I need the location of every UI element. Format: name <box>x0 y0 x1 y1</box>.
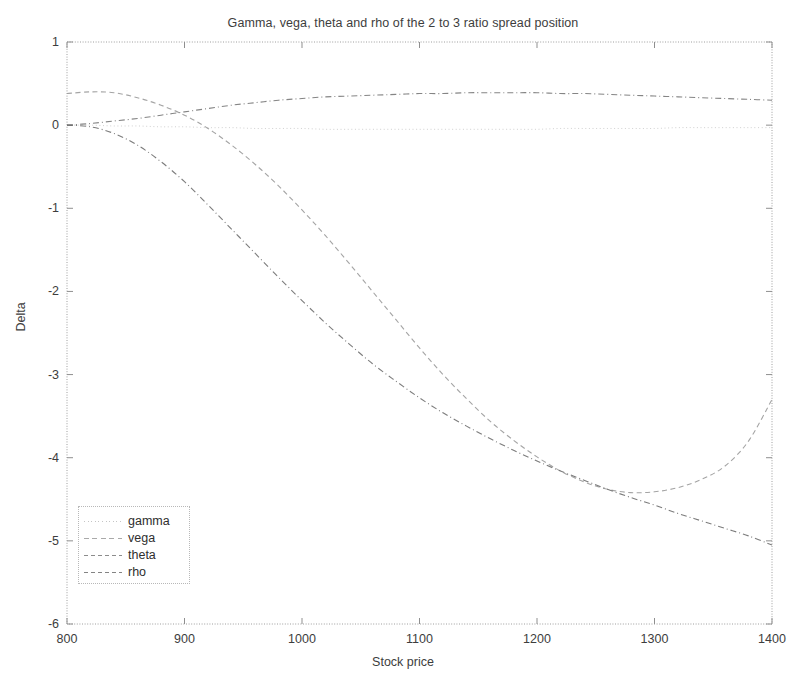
legend-line-sample-vega <box>84 538 122 539</box>
x-axis-label: Stock price <box>0 655 806 669</box>
y-tick-label: 0 <box>25 118 59 132</box>
x-tick-label: 1100 <box>406 632 433 646</box>
series-line-gamma <box>67 125 772 129</box>
series-line-vega <box>67 92 772 493</box>
figure-canvas: Gamma, vega, theta and rho of the 2 to 3… <box>0 0 806 687</box>
legend-line-sample-theta <box>84 555 122 556</box>
y-tick-label: -5 <box>25 534 59 548</box>
series-line-rho <box>67 125 772 545</box>
chart-legend: gammavegathetarho <box>78 506 190 584</box>
x-tick-label: 1000 <box>288 632 316 646</box>
legend-label: theta <box>128 549 156 562</box>
y-tick-label: -6 <box>25 617 59 631</box>
y-tick-label: -4 <box>25 451 59 465</box>
legend-line-sample-rho <box>84 572 122 573</box>
legend-label: rho <box>128 566 146 579</box>
series-line-theta <box>67 93 772 125</box>
data-series-layer <box>67 92 772 545</box>
legend-label: gamma <box>128 515 170 528</box>
legend-line-sample-gamma <box>84 521 122 522</box>
x-tick-label: 1300 <box>641 632 669 646</box>
y-tick-label: -3 <box>25 368 59 382</box>
x-tick-label: 1400 <box>758 632 786 646</box>
y-tick-label: -1 <box>25 201 59 215</box>
legend-label: vega <box>128 532 155 545</box>
y-tick-label: 1 <box>25 35 59 49</box>
x-tick-label: 900 <box>174 632 195 646</box>
x-tick-label: 1200 <box>523 632 551 646</box>
y-tick-label: -2 <box>25 284 59 298</box>
y-axis-label: Delta <box>14 272 28 362</box>
x-tick-label: 800 <box>57 632 78 646</box>
legend-item-rho: rho <box>79 563 189 582</box>
